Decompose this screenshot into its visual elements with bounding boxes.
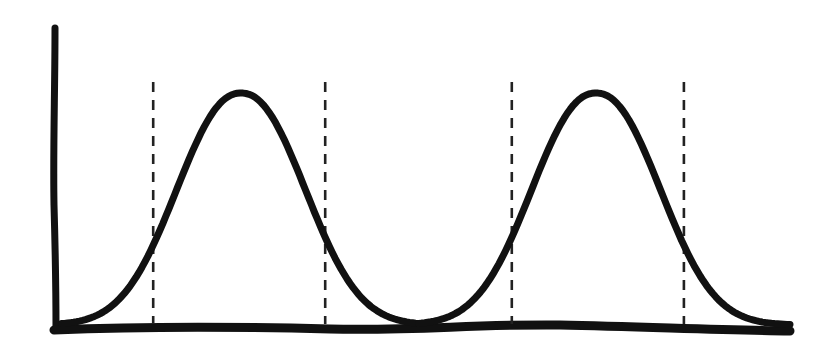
bell-curve-1 (62, 93, 419, 324)
y-axis (54, 28, 56, 330)
bell-curve-2 (419, 93, 791, 325)
two-bell-curves-sketch (0, 0, 836, 359)
